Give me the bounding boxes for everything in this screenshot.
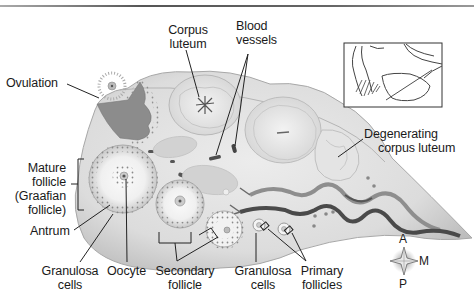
label-degenerating-line1: Degenerating <box>364 127 455 141</box>
label-granulosa-right-line2: cells <box>234 278 292 292</box>
label-corpus-luteum-line2: luteum <box>164 37 212 51</box>
label-corpus-luteum: Corpus luteum <box>164 23 212 51</box>
label-corpus-luteum-line1: Corpus <box>164 23 212 37</box>
label-blood-vessels-line2: vessels <box>236 33 277 47</box>
label-mature-line3: (Graafian <box>6 189 66 203</box>
compass-medial-label: M <box>419 254 429 268</box>
label-granulosa-cells-right: Granulosa cells <box>234 264 292 292</box>
label-primary-line1: Primary <box>298 264 346 278</box>
label-granulosa-cells-left: Granulosa cells <box>40 264 100 292</box>
label-mature-line1: Mature <box>6 161 66 175</box>
label-primary-line2: follicles <box>298 278 346 292</box>
compass-rose-icon <box>390 247 418 275</box>
corpus-luteum-older <box>245 97 321 163</box>
label-granulosa-right-line1: Granulosa <box>234 264 292 278</box>
label-secondary-line1: Secondary <box>155 264 215 278</box>
label-oocyte: Oocyte <box>107 264 146 278</box>
mature-follicle <box>89 145 157 213</box>
secondary-follicle-1 <box>156 180 204 228</box>
label-ovulation: Ovulation <box>6 76 58 90</box>
compass-anterior-label: A <box>399 232 407 246</box>
label-secondary-follicle: Secondary follicle <box>155 264 215 292</box>
label-mature-follicle: Mature follicle (Graafian follicle) <box>6 161 66 217</box>
label-mature-line4: follicle) <box>6 203 66 217</box>
label-blood-vessels: Blood vessels <box>236 19 277 47</box>
label-secondary-line2: follicle <box>155 278 215 292</box>
label-granulosa-left-line1: Granulosa <box>40 264 100 278</box>
label-blood-vessels-line1: Blood <box>236 19 277 33</box>
label-primary-follicles: Primary follicles <box>298 264 346 292</box>
label-mature-line2: follicle <box>6 175 66 189</box>
label-degenerating-line2: corpus luteum <box>364 141 455 155</box>
compass-posterior-label: P <box>399 277 407 291</box>
corpus-luteum <box>169 75 241 135</box>
label-granulosa-left-line2: cells <box>40 278 100 292</box>
inset-locator <box>344 43 442 107</box>
label-degenerating-corpus-luteum: Degenerating corpus luteum <box>364 127 455 155</box>
label-antrum: Antrum <box>30 224 70 238</box>
